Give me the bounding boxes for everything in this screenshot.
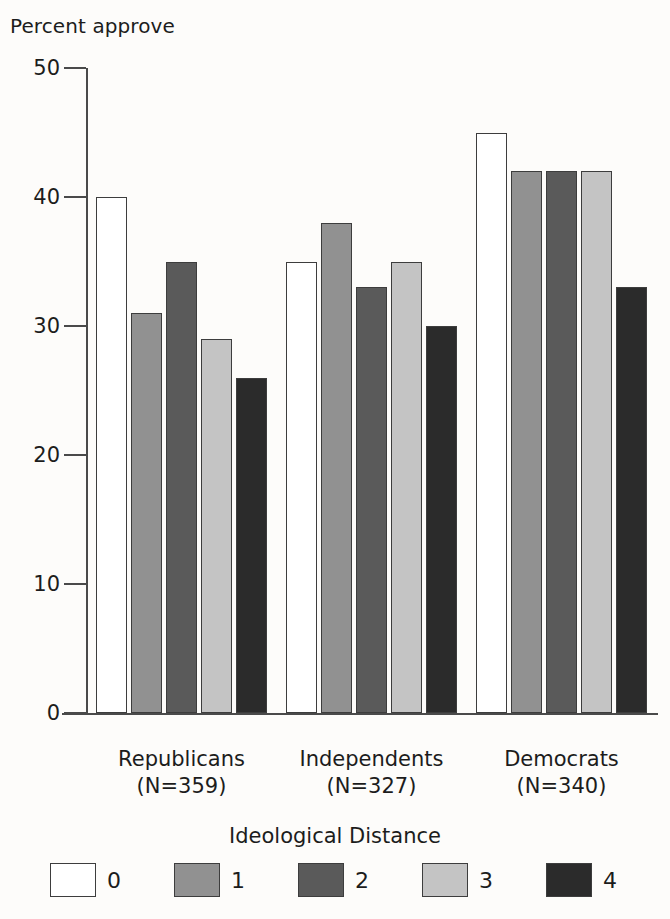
legend-item[interactable]: 3	[422, 858, 493, 902]
y-axis-tick	[64, 583, 86, 585]
bar	[96, 197, 127, 713]
y-axis-line	[86, 68, 88, 715]
bar-chart: Percent approve 50403020100 Republicans(…	[0, 0, 670, 919]
bar	[616, 287, 647, 713]
y-axis-tick-label: 10	[0, 572, 60, 596]
bar	[356, 287, 387, 713]
group-sample-size: (N=340)	[446, 773, 670, 800]
bar	[511, 171, 542, 713]
y-axis-tick-label: 20	[0, 443, 60, 467]
y-axis-tick	[64, 712, 86, 714]
group-name: Democrats	[446, 746, 670, 773]
y-axis-tick	[64, 454, 86, 456]
bar	[391, 262, 422, 714]
legend-item[interactable]: 2	[298, 858, 369, 902]
bar	[201, 339, 232, 713]
legend: 01234	[50, 858, 640, 902]
legend-swatch	[546, 863, 592, 897]
legend-item[interactable]: 4	[546, 858, 617, 902]
bar	[476, 133, 507, 714]
legend-swatch	[174, 863, 220, 897]
y-axis-tick-label: 50	[0, 56, 60, 80]
legend-label: 2	[355, 868, 369, 893]
bar	[166, 262, 197, 714]
bar	[546, 171, 577, 713]
y-axis-title: Percent approve	[10, 14, 175, 38]
y-axis-tick	[64, 196, 86, 198]
legend-label: 0	[107, 868, 121, 893]
y-axis-tick-label: 40	[0, 185, 60, 209]
y-axis-tick-label: 30	[0, 314, 60, 338]
legend-item[interactable]: 1	[174, 858, 245, 902]
legend-swatch	[50, 863, 96, 897]
bar	[321, 223, 352, 713]
legend-swatch	[298, 863, 344, 897]
bar	[426, 326, 457, 713]
legend-label: 3	[479, 868, 493, 893]
legend-label: 1	[231, 868, 245, 893]
y-axis-tick	[64, 325, 86, 327]
bar	[581, 171, 612, 713]
bar	[236, 378, 267, 713]
y-axis-tick-label: 0	[0, 701, 60, 725]
bar	[286, 262, 317, 714]
legend-item[interactable]: 0	[50, 858, 121, 902]
y-axis-tick	[64, 67, 86, 69]
bar	[131, 313, 162, 713]
legend-label: 4	[603, 868, 617, 893]
legend-swatch	[422, 863, 468, 897]
x-axis-group-label: Democrats(N=340)	[446, 746, 670, 800]
x-axis-line	[62, 713, 658, 715]
legend-title: Ideological Distance	[0, 824, 670, 848]
